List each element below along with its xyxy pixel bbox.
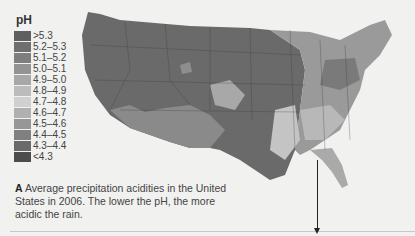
legend-label: 4.3–4.4 bbox=[33, 141, 66, 151]
legend-swatch bbox=[14, 141, 31, 151]
legend-label: 5.0–5.1 bbox=[33, 64, 66, 74]
ph-legend: pH >5.35.2–5.35.1–5.25.0–5.14.9–5.04.8–4… bbox=[14, 13, 66, 162]
divider-line bbox=[10, 231, 415, 232]
legend-label: 4.4–4.5 bbox=[33, 130, 66, 140]
legend-swatch bbox=[14, 75, 31, 85]
pointer-arrow-line bbox=[317, 160, 318, 232]
legend-label: 4.5–4.6 bbox=[33, 119, 66, 129]
legend-item: 5.0–5.1 bbox=[14, 63, 66, 74]
legend-item: 4.7–4.8 bbox=[14, 96, 66, 107]
legend-label: 5.2–5.3 bbox=[33, 42, 66, 52]
caption-text: Average precipitation acidities in the U… bbox=[15, 182, 226, 220]
legend-label: 4.6–4.7 bbox=[33, 108, 66, 118]
legend-item: 4.9–5.0 bbox=[14, 74, 66, 85]
legend-label: >5.3 bbox=[33, 31, 53, 41]
legend-label: 5.1–5.2 bbox=[33, 53, 66, 63]
legend-swatch bbox=[14, 119, 31, 129]
legend-swatch bbox=[14, 130, 31, 140]
arrow-down-icon bbox=[314, 228, 320, 234]
legend-item: 4.5–4.6 bbox=[14, 118, 66, 129]
legend-label: 4.7–4.8 bbox=[33, 97, 66, 107]
legend-item: <4.3 bbox=[14, 151, 66, 162]
caption-letter: A bbox=[15, 182, 23, 194]
legend-swatch bbox=[14, 64, 31, 74]
legend-swatch bbox=[14, 31, 31, 41]
legend-item: 5.1–5.2 bbox=[14, 52, 66, 63]
legend-item: 4.3–4.4 bbox=[14, 140, 66, 151]
legend-item: 4.4–4.5 bbox=[14, 129, 66, 140]
legend-swatch bbox=[14, 108, 31, 118]
us-precipitation-ph-map bbox=[70, 0, 415, 190]
legend-label: 4.9–5.0 bbox=[33, 75, 66, 85]
legend-swatch bbox=[14, 53, 31, 63]
legend-item: 4.8–4.9 bbox=[14, 85, 66, 96]
legend-swatch bbox=[14, 97, 31, 107]
legend-swatch bbox=[14, 152, 31, 162]
legend-swatch bbox=[14, 86, 31, 96]
legend-item: >5.3 bbox=[14, 30, 66, 41]
legend-swatch bbox=[14, 42, 31, 52]
legend-label: 4.8–4.9 bbox=[33, 86, 66, 96]
legend-label: <4.3 bbox=[33, 152, 53, 162]
figure-caption: A Average precipitation acidities in the… bbox=[15, 182, 230, 221]
legend-item: 4.6–4.7 bbox=[14, 107, 66, 118]
legend-title: pH bbox=[16, 13, 66, 27]
legend-item: 5.2–5.3 bbox=[14, 41, 66, 52]
